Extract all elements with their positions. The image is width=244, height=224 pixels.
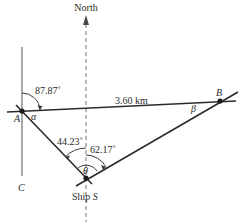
point-c-label: C bbox=[18, 182, 25, 193]
theta-label: θ bbox=[83, 165, 88, 176]
point-b-label: B bbox=[216, 87, 222, 98]
angle-44-label: 44.23˚ bbox=[57, 136, 83, 147]
north-label: North bbox=[74, 2, 97, 13]
north-arrow-icon bbox=[83, 15, 89, 25]
point-a-marker bbox=[19, 108, 24, 113]
point-a-label: A bbox=[13, 113, 21, 124]
angle-arrow-icon bbox=[38, 106, 43, 111]
ship-label: Ship S bbox=[72, 191, 98, 202]
point-s-marker bbox=[83, 175, 88, 180]
beta-label: β bbox=[190, 103, 196, 114]
navigation-triangle-diagram: North 87.87˚ 3.60 km A α B β 44.23˚ 62.1… bbox=[0, 0, 244, 224]
distance-label: 3.60 km bbox=[115, 95, 148, 106]
angle-62-label: 62.17˚ bbox=[90, 144, 116, 155]
ship-point-letter: S bbox=[93, 191, 98, 202]
point-b-marker bbox=[217, 98, 222, 103]
ship-word: Ship bbox=[72, 191, 90, 202]
angle-87-label: 87.87˚ bbox=[35, 85, 61, 96]
angle-arc-44 bbox=[65, 148, 86, 157]
alpha-label: α bbox=[31, 111, 37, 122]
line-sb bbox=[76, 92, 238, 186]
